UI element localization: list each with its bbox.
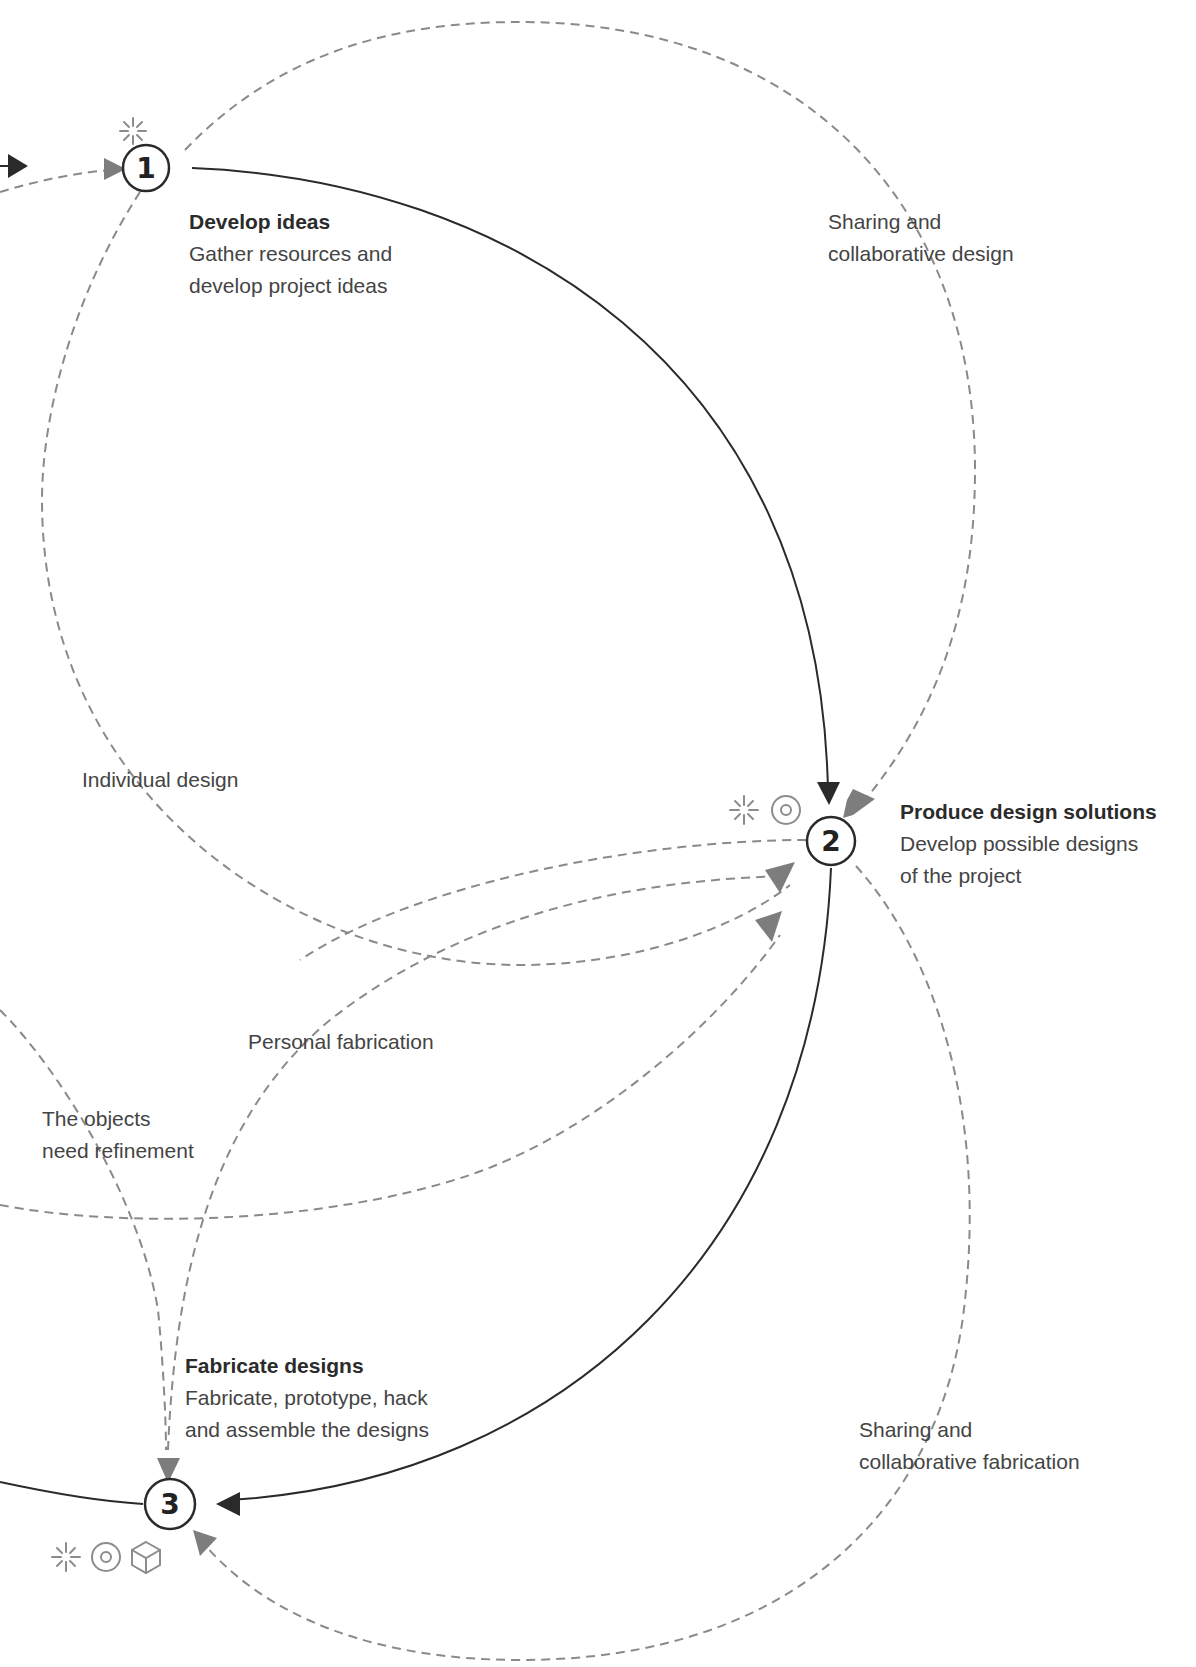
target-icon	[772, 796, 800, 824]
label-sharing-collaborative-design: Sharing and collaborative design	[828, 206, 1014, 270]
target-icon	[92, 1543, 120, 1571]
path-sharing-collaborative-fabrication	[205, 866, 970, 1660]
path-left-into-node3	[0, 1482, 143, 1504]
arrowhead-personal-fab-into-node2	[765, 862, 795, 893]
node-1-label: Develop ideas Gather resources and devel…	[189, 206, 392, 302]
arrowhead-solid-into-node3	[216, 1492, 240, 1516]
path-individual-design	[42, 192, 790, 965]
arrowhead-lower-loop-into-node2	[755, 911, 782, 942]
label-line: Personal fabrication	[248, 1026, 434, 1058]
label-sharing-collaborative-fabrication: Sharing and collaborative fabrication	[859, 1414, 1080, 1478]
label-line: collaborative design	[828, 238, 1014, 270]
label-line: need refinement	[42, 1135, 194, 1167]
label-line: Sharing and	[828, 206, 1014, 238]
sparkle-icon	[120, 118, 146, 144]
node-1-desc-line-2: develop project ideas	[189, 270, 392, 302]
arrowhead-solid-left-node1	[8, 154, 28, 178]
node-3: 3	[145, 1479, 195, 1529]
node-3-title: Fabricate designs	[185, 1350, 429, 1382]
arrowhead-solid-into-node2	[817, 782, 840, 805]
label-line: Individual design	[82, 764, 238, 796]
sparkle-icon	[52, 1543, 80, 1571]
node-1: 1	[123, 145, 169, 191]
label-objects-need-refinement: The objects need refinement	[42, 1103, 194, 1167]
path-entry-node1	[0, 170, 112, 192]
cube-icon	[132, 1542, 160, 1573]
sparkle-icon	[730, 796, 758, 824]
node-1-title: Develop ideas	[189, 206, 392, 238]
label-line: The objects	[42, 1103, 194, 1135]
node-1-number: 1	[136, 152, 155, 185]
label-individual-design: Individual design	[82, 764, 238, 796]
node-3-desc-line-2: and assemble the designs	[185, 1414, 429, 1446]
node-2-desc-line-1: Develop possible designs	[900, 828, 1157, 860]
node-2: 2	[807, 817, 855, 865]
node-2-label: Produce design solutions Develop possibl…	[900, 796, 1157, 892]
node-2-title: Produce design solutions	[900, 796, 1157, 828]
node-2-desc-line-2: of the project	[900, 860, 1157, 892]
label-line: Sharing and	[859, 1414, 1080, 1446]
node-3-number: 3	[160, 1488, 179, 1521]
label-line: collaborative fabrication	[859, 1446, 1080, 1478]
node-2-number: 2	[821, 825, 840, 858]
node-1-desc-line-1: Gather resources and	[189, 238, 392, 270]
label-personal-fabrication: Personal fabrication	[248, 1026, 434, 1058]
path-objects-refinement	[0, 1010, 166, 1450]
arrowhead-sharing-fab-into-node3	[193, 1530, 217, 1556]
arrowhead-sharing-design-into-node2	[843, 789, 875, 818]
node-3-label: Fabricate designs Fabricate, prototype, …	[185, 1350, 429, 1446]
node-3-desc-line-1: Fabricate, prototype, hack	[185, 1382, 429, 1414]
path-sharing-collaborative-design	[185, 22, 975, 800]
